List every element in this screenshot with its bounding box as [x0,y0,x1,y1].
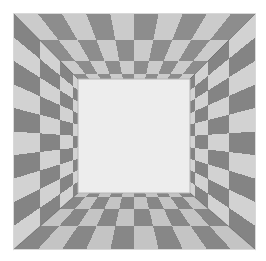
tile-ceiling-r3-c4 [122,74,134,79]
perspective-room-illustration: Checkerboard perspective room One-point … [0,0,266,261]
tile-ceiling-r3-c6 [145,74,158,79]
back-wall [78,79,190,193]
tile-ceiling-r2-c4 [119,61,134,74]
tile-floor-r2-c4 [119,197,134,208]
tile-ceiling-r3-c3 [110,74,123,79]
tile-ceiling-r3-c5 [134,74,146,79]
tile-left-wall-r2-c5 [60,135,73,150]
tile-right-wall-r3-c3 [190,111,195,125]
tile-floor-r3-c6 [145,193,158,197]
tile-left-wall-r3-c4 [73,123,78,136]
tile-floor-r3-c3 [110,193,123,197]
tile-left-wall-r1-c5 [40,133,60,152]
tile-floor-r3-c5 [134,193,146,197]
tile-right-wall-r3-c6 [190,147,195,160]
tile-left-wall-r3-c6 [73,147,78,160]
figure-root: Checkerboard perspective room One-point … [0,0,266,261]
tile-right-wall-r2-c5 [195,135,208,150]
tile-left-wall-r3-c5 [73,136,78,148]
tile-right-wall-r3-c4 [190,123,195,136]
tile-floor-r3-c4 [122,193,134,197]
tile-right-wall-r0-c5 [229,132,256,156]
tile-left-wall-r3-c3 [73,111,78,125]
tile-right-wall-r1-c5 [208,133,228,152]
tile-right-wall-r3-c5 [190,136,195,148]
tile-left-wall-r0-c5 [13,132,40,156]
